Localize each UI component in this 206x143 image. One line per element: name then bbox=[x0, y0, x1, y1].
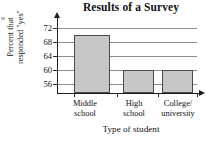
category-label-high-school: High school bbox=[113, 99, 155, 118]
category-label-middle-school-line-2: school bbox=[60, 109, 110, 119]
category-label-high-school-line-2: school bbox=[113, 109, 155, 119]
y-axis-arrow-icon bbox=[54, 12, 60, 18]
y-tick-label-64: 64 bbox=[43, 52, 52, 61]
gridline-72 bbox=[57, 28, 197, 29]
y-axis-line bbox=[57, 17, 58, 93]
bar-college-university bbox=[162, 70, 193, 93]
y-axis-label: Percent that responded "yes" bbox=[3, 0, 29, 77]
category-label-college-university-line-2: university bbox=[152, 109, 204, 119]
y-tick-label-72: 72 bbox=[43, 24, 52, 33]
y-axis-label-line-1: Percent that bbox=[6, 10, 16, 64]
y-tick-label-68: 68 bbox=[43, 38, 52, 47]
x-axis-line bbox=[57, 93, 200, 94]
x-axis-label: Type of student bbox=[56, 124, 206, 134]
bar-middle-school bbox=[74, 35, 110, 93]
x-axis-arrow-icon bbox=[199, 90, 205, 96]
category-label-middle-school-line-1: Middle bbox=[60, 99, 110, 109]
category-label-college-university-line-1: College/ bbox=[152, 99, 204, 109]
bar-high-school bbox=[123, 70, 154, 93]
y-tick-label-56: 56 bbox=[43, 80, 52, 89]
category-label-middle-school: Middle school bbox=[60, 99, 110, 118]
bar-chart-figure: Results of a Survey Percent that respond… bbox=[0, 0, 206, 143]
category-label-college-university: College/ university bbox=[152, 99, 204, 118]
y-axis-label-line-2: responded "yes" bbox=[16, 10, 26, 64]
chart-title: Results of a Survey bbox=[56, 1, 206, 13]
y-tick-label-60: 60 bbox=[43, 66, 52, 75]
category-label-high-school-line-1: High bbox=[113, 99, 155, 109]
plot-area: 72 68 64 60 56 bbox=[57, 25, 197, 93]
